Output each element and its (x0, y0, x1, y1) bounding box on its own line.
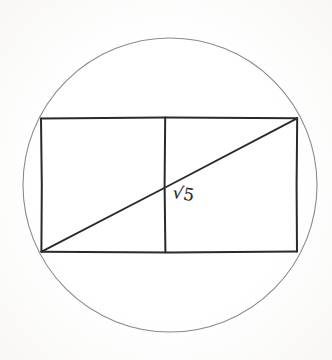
rectangle-right-edge (297, 118, 298, 251)
vertical-divider (165, 118, 166, 253)
diagonal-line (42, 119, 297, 252)
diagonal-length-label: √5 (171, 184, 195, 204)
geometry-figure-canvas: √5 (0, 0, 332, 360)
rectangle-bottom-edge (41, 252, 297, 253)
geometry-drawing (0, 0, 332, 360)
rectangle-top-edge (41, 117, 297, 118)
rectangle-left-edge (41, 119, 42, 252)
